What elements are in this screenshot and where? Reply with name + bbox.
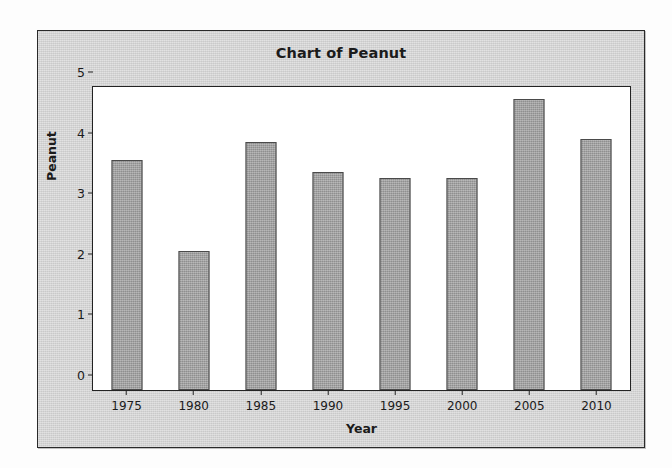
bar-slot <box>160 87 227 390</box>
y-axis-tick-label: 5 <box>77 65 85 80</box>
bar[interactable] <box>245 142 276 390</box>
y-axis-tick: 4 <box>77 125 93 140</box>
x-axis-tick: 1985 <box>246 390 277 413</box>
x-axis-tick-mark <box>596 390 597 395</box>
y-axis-label: Peanut <box>44 131 59 181</box>
bar-slot <box>93 87 160 390</box>
y-axis-tick-label: 1 <box>77 307 85 322</box>
x-axis-label: Year <box>92 421 631 436</box>
bar[interactable] <box>380 178 411 390</box>
y-axis-tick-mark <box>88 72 93 73</box>
y-axis-tick-label: 2 <box>77 246 85 261</box>
x-axis-tick-mark <box>462 390 463 395</box>
x-axis-tick-mark <box>126 390 127 395</box>
y-axis-tick-label: 3 <box>77 186 85 201</box>
bar-slot <box>227 87 294 390</box>
x-axis-tick-mark <box>395 390 396 395</box>
x-axis-tick: 2010 <box>581 390 612 413</box>
x-axis-tick-label: 1980 <box>178 399 209 413</box>
bar[interactable] <box>111 160 142 390</box>
plot-area: 012345 19751980198519901995200020052010 <box>92 86 631 391</box>
x-axis-tick: 1975 <box>111 390 142 413</box>
y-axis-tick: 5 <box>77 65 93 80</box>
y-axis-tick-label: 4 <box>77 125 85 140</box>
y-axis-tick: 3 <box>77 186 93 201</box>
x-axis-tick: 2005 <box>514 390 545 413</box>
bar[interactable] <box>514 99 545 390</box>
bar-slot <box>429 87 496 390</box>
bar-series <box>93 87 630 390</box>
x-axis-tick: 1980 <box>178 390 209 413</box>
x-axis-tick: 1990 <box>313 390 344 413</box>
bar[interactable] <box>312 172 343 390</box>
bar[interactable] <box>447 178 478 390</box>
chart-panel: Chart of Peanut Peanut 012345 1975198019… <box>37 30 645 448</box>
y-axis-tick: 0 <box>77 368 93 383</box>
x-axis-tick: 2000 <box>447 390 478 413</box>
y-axis-tick-label: 0 <box>77 368 85 383</box>
x-axis-tick-mark <box>529 390 530 395</box>
bar-slot <box>294 87 361 390</box>
bar-slot <box>362 87 429 390</box>
x-axis-tick-mark <box>260 390 261 395</box>
x-axis-tick: 1995 <box>380 390 411 413</box>
bar-slot <box>496 87 563 390</box>
x-axis-tick-label: 2000 <box>447 399 478 413</box>
x-axis-tick-label: 1985 <box>246 399 277 413</box>
x-axis-tick-label: 1990 <box>313 399 344 413</box>
bar-slot <box>563 87 630 390</box>
x-axis-tick-mark <box>327 390 328 395</box>
bar[interactable] <box>581 139 612 390</box>
x-axis-tick-mark <box>193 390 194 395</box>
page-background: Chart of Peanut Peanut 012345 1975198019… <box>0 0 672 468</box>
y-axis-tick: 2 <box>77 246 93 261</box>
y-axis-tick: 1 <box>77 307 93 322</box>
bar[interactable] <box>178 251 209 390</box>
x-axis-tick-label: 1975 <box>111 399 142 413</box>
x-axis-tick-label: 2005 <box>514 399 545 413</box>
x-axis-tick-label: 1995 <box>380 399 411 413</box>
x-axis-tick-label: 2010 <box>581 399 612 413</box>
chart-title: Chart of Peanut <box>38 45 644 61</box>
